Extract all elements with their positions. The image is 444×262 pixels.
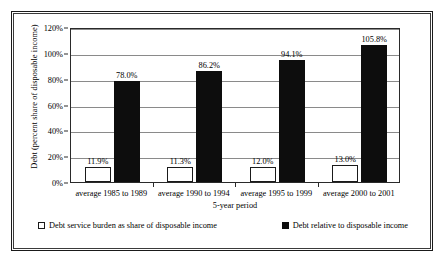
y-axis-tick-label: 120%: [44, 24, 63, 33]
legend-item-0[interactable]: Debt service burden as share of disposab…: [38, 221, 217, 230]
bar-debt-service-burden-3: [332, 165, 358, 182]
y-axis-tick: [64, 105, 68, 106]
legend-swatch-open-icon: [38, 222, 45, 229]
legend-swatch-solid-icon: [282, 222, 289, 229]
bar-debt-relative-2: [279, 60, 305, 182]
bar-value-label: 86.2%: [199, 61, 220, 70]
y-axis-tick: [64, 53, 68, 54]
legend-item-1[interactable]: Debt relative to disposable income: [282, 221, 408, 230]
bar-value-label: 12.0%: [252, 157, 273, 166]
bar-debt-service-burden-1: [167, 167, 193, 182]
y-axis-tick-label: 20%: [48, 153, 63, 162]
chart-figure-frame: Debt (percent share of disposable income…: [11, 11, 433, 251]
y-axis-tick-label: 100%: [44, 49, 63, 58]
y-axis-tick-label: 60%: [48, 101, 63, 110]
y-axis-tick-label: 80%: [48, 75, 63, 84]
bar-debt-relative-0: [114, 81, 140, 182]
bar-value-label: 94.1%: [281, 50, 302, 59]
bar-value-label: 105.8%: [361, 35, 387, 44]
bar-value-label: 13.0%: [335, 155, 356, 164]
y-axis-tick: [64, 157, 68, 158]
bar-debt-relative-3: [361, 45, 387, 182]
y-axis-tick: [64, 79, 68, 80]
x-axis-category-label: average 1985 to 1989: [75, 189, 147, 198]
x-axis-tick: [235, 183, 236, 187]
x-axis-title: 5-year period: [70, 201, 400, 210]
bars-layer: 11.9%78.0%11.3%86.2%12.0%94.1%13.0%105.8…: [71, 29, 399, 182]
bar-value-label: 78.0%: [116, 71, 137, 80]
chart-figure-inner: Debt (percent share of disposable income…: [12, 12, 432, 250]
y-axis-tick-labels: 0%20%40%60%80%100%120%: [12, 28, 68, 183]
x-axis-category-label: average 1990 to 1994: [158, 189, 230, 198]
bar-value-label: 11.3%: [170, 157, 191, 166]
x-axis-category-label: average 2000 to 2001: [323, 189, 395, 198]
bar-value-label: 11.9%: [87, 157, 108, 166]
x-axis-category-label: average 1995 to 1999: [240, 189, 312, 198]
x-axis-ticks: [70, 183, 400, 188]
bar-debt-service-burden-2: [250, 167, 276, 183]
legend-item-label: Debt service burden as share of disposab…: [49, 221, 217, 230]
chart-legend: Debt service burden as share of disposab…: [26, 221, 420, 230]
bar-debt-service-burden-0: [85, 167, 111, 182]
legend-item-label: Debt relative to disposable income: [293, 221, 408, 230]
y-axis-tick: [64, 183, 68, 184]
y-axis-tick-label: 0%: [52, 179, 63, 188]
x-axis-tick: [318, 183, 319, 187]
y-axis-tick-label: 40%: [48, 127, 63, 136]
x-axis-tick: [153, 183, 154, 187]
bar-debt-relative-1: [196, 71, 222, 182]
plot-area: 11.9%78.0%11.3%86.2%12.0%94.1%13.0%105.8…: [70, 28, 400, 183]
y-axis-tick: [64, 28, 68, 29]
y-axis-tick: [64, 131, 68, 132]
